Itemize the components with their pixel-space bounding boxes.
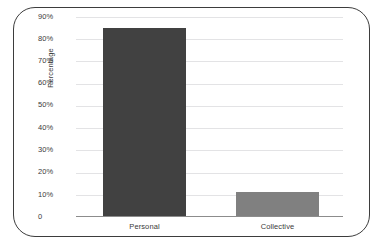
chart-screenshot: Percentage 90% 80% 70% 60% 50% 40% 30% 2… bbox=[0, 0, 384, 248]
x-axis-tick-labels: Personal Collective bbox=[76, 0, 343, 248]
y-tick-label: 80% bbox=[38, 35, 72, 43]
y-tick-label: 70% bbox=[38, 57, 72, 65]
y-tick-label: 40% bbox=[38, 124, 72, 132]
y-tick-label: 20% bbox=[38, 168, 72, 176]
x-tick-label: Personal bbox=[103, 222, 186, 231]
y-tick-label: 90% bbox=[38, 13, 72, 21]
y-tick-label: 10% bbox=[38, 191, 72, 199]
y-tick-label: 60% bbox=[38, 79, 72, 87]
y-tick-label: 0 bbox=[38, 213, 72, 221]
y-tick-label: 50% bbox=[38, 101, 72, 109]
x-tick-label: Collective bbox=[236, 222, 319, 231]
y-axis-tick-labels: 90% 80% 70% 60% 50% 40% 30% 20% 10% 0 bbox=[38, 17, 72, 217]
y-tick-label: 30% bbox=[38, 146, 72, 154]
